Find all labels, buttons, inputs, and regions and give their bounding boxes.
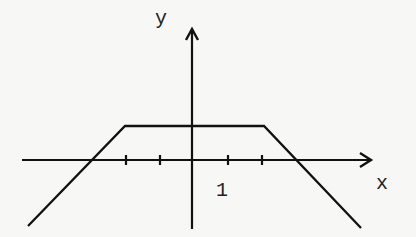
function-graph: y x 1: [0, 0, 416, 237]
y-axis: [186, 29, 198, 229]
x-axis: [22, 153, 371, 167]
function-curve: [28, 126, 361, 228]
y-axis-label: y: [155, 7, 167, 30]
tick-label-1: 1: [216, 179, 228, 202]
graph-canvas: y x 1: [0, 0, 416, 237]
x-axis-label: x: [376, 172, 388, 195]
